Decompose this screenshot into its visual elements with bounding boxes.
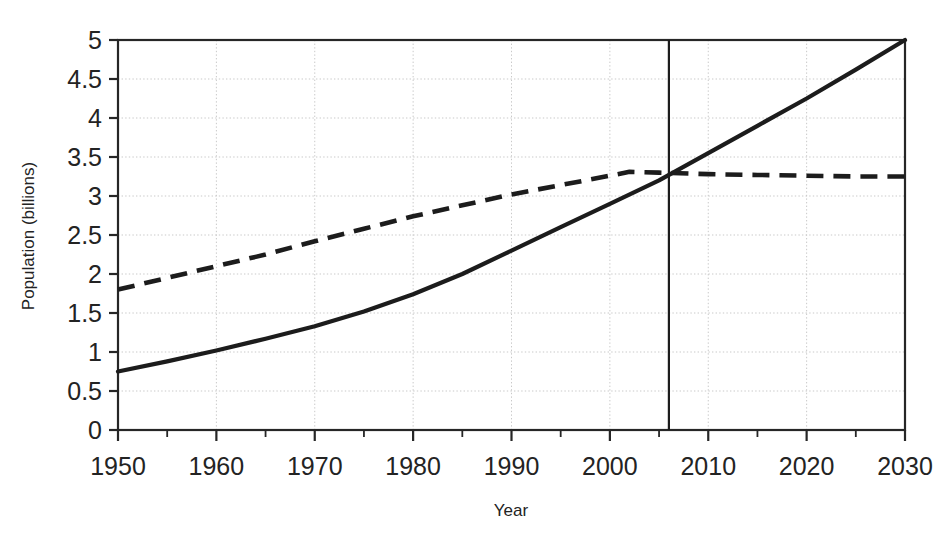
x-tick-label: 2030 bbox=[877, 452, 933, 480]
x-tick-label: 2010 bbox=[680, 452, 736, 480]
y-tick-label: 3.5 bbox=[67, 143, 102, 171]
y-tick-label: 4 bbox=[88, 104, 102, 132]
x-tick-label: 1960 bbox=[189, 452, 245, 480]
y-axis-title: Population (billions) bbox=[19, 162, 38, 310]
y-tick-label: 4.5 bbox=[67, 65, 102, 93]
y-tick-label: 2.5 bbox=[67, 221, 102, 249]
x-tick-label: 1970 bbox=[287, 452, 343, 480]
y-tick-label: 2 bbox=[88, 260, 102, 288]
y-tick-label: 1 bbox=[88, 338, 102, 366]
y-tick-label: 0 bbox=[88, 416, 102, 444]
y-tick-label: 3 bbox=[88, 182, 102, 210]
x-tick-label: 2000 bbox=[582, 452, 638, 480]
x-axis-tick-labels: 195019601970198019902000201020202030 bbox=[90, 452, 933, 480]
x-axis-ticks bbox=[118, 430, 905, 441]
population-line-chart: 00.511.522.533.544.55 195019601970198019… bbox=[0, 0, 949, 547]
chart-canvas: 00.511.522.533.544.55 195019601970198019… bbox=[0, 0, 949, 547]
gridlines-vertical bbox=[118, 40, 905, 430]
x-tick-label: 2020 bbox=[779, 452, 835, 480]
y-tick-label: 1.5 bbox=[67, 299, 102, 327]
y-tick-label: 0.5 bbox=[67, 377, 102, 405]
y-axis-tick-labels: 00.511.522.533.544.55 bbox=[67, 26, 102, 444]
x-tick-label: 1980 bbox=[385, 452, 441, 480]
series-line-rural-population bbox=[118, 172, 905, 290]
x-tick-label: 1950 bbox=[90, 452, 146, 480]
x-axis-title: Year bbox=[494, 501, 529, 520]
x-tick-label: 1990 bbox=[484, 452, 540, 480]
y-tick-label: 5 bbox=[88, 26, 102, 54]
